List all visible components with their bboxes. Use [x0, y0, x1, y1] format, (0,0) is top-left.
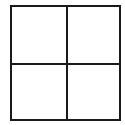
grid-cell-top-right	[67, 7, 119, 64]
grid-cell-top-left	[12, 7, 67, 64]
grid-cell-bottom-right	[67, 64, 119, 119]
two-by-two-grid	[10, 5, 121, 121]
grid-cell-bottom-left	[12, 64, 67, 119]
